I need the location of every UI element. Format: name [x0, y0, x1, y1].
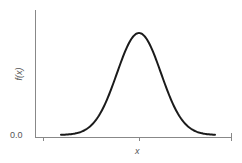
y-axis-label: f(x) [11, 66, 27, 82]
density-curve [61, 33, 215, 135]
chart-plot-area [0, 0, 242, 163]
chart: f(x) 0.0 x [0, 0, 242, 163]
y-tick-label-zero: 0.0 [10, 130, 23, 140]
x-axis-label: x [135, 146, 140, 156]
